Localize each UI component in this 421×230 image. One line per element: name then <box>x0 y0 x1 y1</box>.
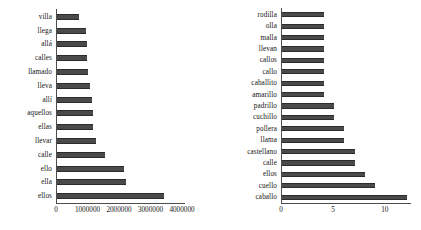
value-axis-line-left <box>56 9 57 204</box>
bar <box>57 14 79 20</box>
value-tick-label: 10 <box>381 206 388 214</box>
bar <box>282 115 334 120</box>
value-tick-label: 1000000 <box>75 206 100 214</box>
bar <box>282 69 324 74</box>
bar <box>282 172 365 177</box>
value-tick-label: 0 <box>54 206 58 214</box>
value-tick-label: 2000000 <box>106 206 131 214</box>
bar <box>282 12 324 17</box>
chart-panel-left: villallegaallácallesllamadollevaallíaq… <box>0 0 210 230</box>
value-axis-baseline-right <box>281 203 411 204</box>
plot-area-left: 01000000200000030000004000000 <box>0 0 210 230</box>
bar <box>57 179 126 185</box>
bar <box>57 28 86 34</box>
bar <box>57 124 93 130</box>
bar <box>282 81 324 86</box>
value-axis-baseline-left <box>56 203 185 204</box>
bar <box>282 58 324 63</box>
bar <box>57 83 90 89</box>
bar <box>57 69 88 75</box>
bar <box>57 55 87 61</box>
value-tick-label: 3000000 <box>138 206 163 214</box>
bar <box>282 149 355 154</box>
bar <box>282 46 324 51</box>
bar <box>57 110 93 116</box>
bar <box>282 183 375 188</box>
figure-two-bar-charts: villallegaallácallesllamadollevaallíaq… <box>0 0 421 230</box>
bar <box>57 138 96 144</box>
bar <box>282 195 407 200</box>
bar <box>282 103 334 108</box>
chart-panel-right: rodillaollamallallevancalloscallocaballi… <box>210 0 421 230</box>
bar <box>282 35 324 40</box>
bar <box>282 160 355 165</box>
bar <box>57 97 92 103</box>
value-tick-label: 0 <box>279 206 283 214</box>
bar <box>57 41 87 47</box>
bar <box>282 138 344 143</box>
bar <box>57 152 105 158</box>
value-tick-label: 5 <box>331 206 335 214</box>
value-tick-label: 4000000 <box>169 206 194 214</box>
bar <box>282 24 324 29</box>
bar <box>57 193 164 199</box>
bar <box>282 126 344 131</box>
plot-area-right: 0510 <box>210 0 421 230</box>
bar <box>282 92 324 97</box>
bar <box>57 166 124 172</box>
